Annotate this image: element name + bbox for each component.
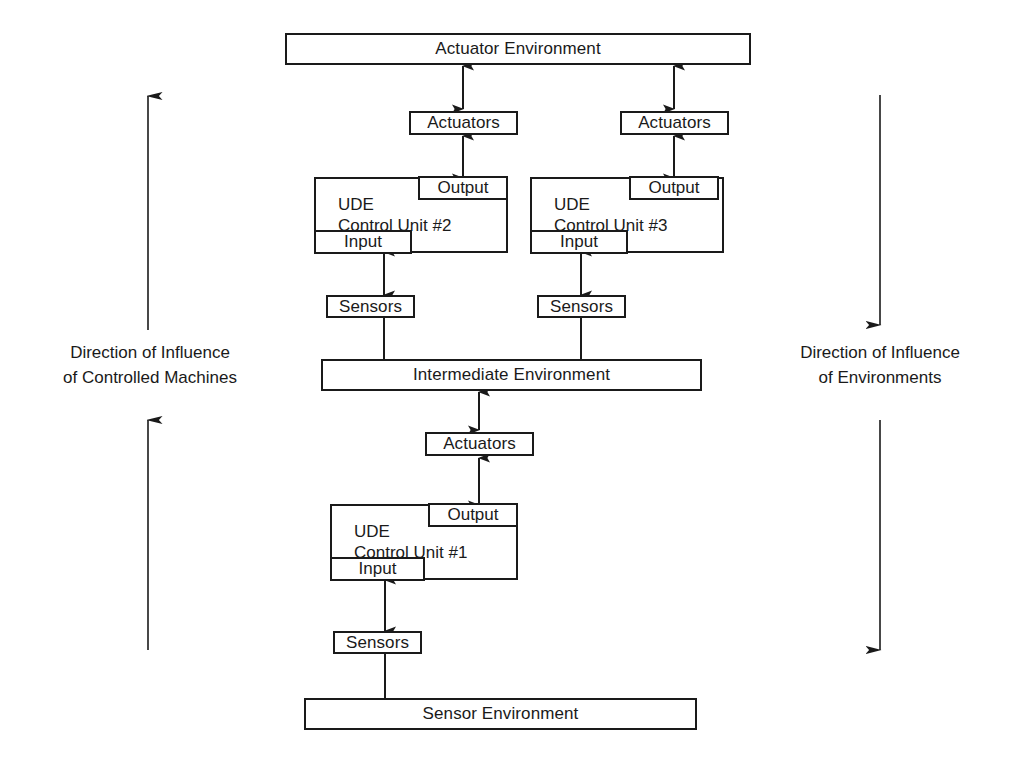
sensor-environment-label: Sensor Environment xyxy=(423,705,579,723)
actuators-block-top-left: Actuators xyxy=(409,111,518,135)
actuators-top-right-label: Actuators xyxy=(638,114,711,132)
actuator-environment-label: Actuator Environment xyxy=(435,40,600,58)
right-annotation-line2: of Environments xyxy=(762,365,998,390)
ude-control-unit-1-input-port: Input xyxy=(330,557,425,581)
ude-control-unit-1-output-port: Output xyxy=(428,503,518,527)
ude-control-unit-2-input-port: Input xyxy=(314,230,412,254)
sensors-bottom-label: Sensors xyxy=(346,634,409,652)
right-direction-annotation: Direction of Influence of Environments xyxy=(762,340,998,390)
left-annotation-line2: of Controlled Machines xyxy=(30,365,270,390)
ude-control-unit-2-input-label: Input xyxy=(344,232,382,252)
sensor-environment-box: Sensor Environment xyxy=(304,698,697,730)
ude-control-unit-1-input-label: Input xyxy=(359,559,397,579)
actuators-top-left-label: Actuators xyxy=(427,114,500,132)
left-annotation-line1: Direction of Influence xyxy=(30,340,270,365)
ude-control-unit-1-output-label: Output xyxy=(447,505,498,525)
intermediate-environment-label: Intermediate Environment xyxy=(413,366,610,384)
sensors-left-label: Sensors xyxy=(339,298,402,316)
ude-control-unit-3-output-label: Output xyxy=(648,178,699,198)
intermediate-environment-box: Intermediate Environment xyxy=(321,359,702,391)
sensors-right-label: Sensors xyxy=(550,298,613,316)
actuators-block-middle: Actuators xyxy=(425,432,534,456)
sensors-block-right: Sensors xyxy=(537,295,626,318)
ude-control-unit-2-line1: UDE xyxy=(338,194,374,216)
ude-control-unit-2-output-port: Output xyxy=(418,176,508,200)
actuators-middle-label: Actuators xyxy=(443,435,516,453)
actuators-block-top-right: Actuators xyxy=(620,111,729,135)
right-annotation-line1: Direction of Influence xyxy=(762,340,998,365)
ude-control-unit-3-output-port: Output xyxy=(629,176,719,200)
ude-control-unit-1-line1: UDE xyxy=(354,521,390,543)
sensors-block-bottom: Sensors xyxy=(333,631,422,654)
sensors-block-left: Sensors xyxy=(326,295,415,318)
diagram-canvas: Actuator Environment Actuators Actuators… xyxy=(0,0,1022,765)
ude-control-unit-3-line1: UDE xyxy=(554,194,590,216)
ude-control-unit-2-output-label: Output xyxy=(437,178,488,198)
actuator-environment-box: Actuator Environment xyxy=(285,33,751,65)
ude-control-unit-3-input-port: Input xyxy=(530,230,628,254)
left-direction-annotation: Direction of Influence of Controlled Mac… xyxy=(30,340,270,390)
ude-control-unit-3-input-label: Input xyxy=(560,232,598,252)
